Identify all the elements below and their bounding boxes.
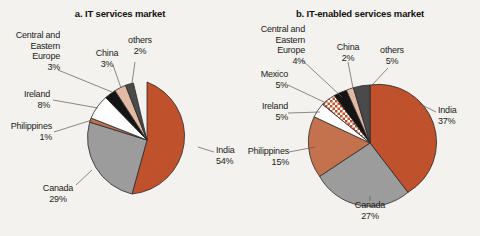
label-others-a: others 2%: [120, 35, 160, 56]
label-philippines-a: Philippines 1%: [0, 121, 52, 142]
pie-b-slices: [308, 84, 436, 206]
label-ireland-b: Ireland 5%: [240, 101, 288, 122]
label-central-eastern-europe-b: Central and Eastern Europe 4%: [243, 24, 305, 66]
panel-it-services-market: a. IT services market: [0, 0, 240, 236]
leader-ireland-b: [288, 112, 320, 113]
label-central-eastern-europe-a: Central and Eastern Europe 3%: [0, 30, 60, 72]
leader-india-a: [198, 147, 214, 152]
label-others-b: others 5%: [372, 45, 412, 66]
leader-others-b: [372, 68, 388, 85]
label-philippines-b: Philippines 15%: [235, 146, 289, 167]
label-mexico-b: Mexico 5%: [240, 69, 288, 90]
figure-two-pie-charts: a. IT services market: [0, 0, 480, 236]
leader-central-eastern-europe-a: [58, 70, 112, 92]
panel-it-enabled-services-market: b. IT-enabled services market: [240, 0, 480, 236]
label-china-b: China 2%: [328, 42, 368, 63]
leader-others-a: [132, 62, 135, 83]
label-ireland-a: Ireland 8%: [0, 89, 50, 110]
label-canada-b: Canada 27%: [345, 200, 395, 221]
label-india-b: India 37%: [438, 105, 478, 126]
leader-china-b: [348, 62, 353, 88]
leader-ireland-a: [53, 100, 98, 108]
pie-a-slices: [87, 82, 184, 194]
leader-central-eastern-europe-b: [302, 60, 342, 97]
label-canada-a: Canada 29%: [33, 183, 83, 204]
leader-philippines-a: [54, 120, 92, 132]
leader-mexico-b: [288, 85, 326, 103]
